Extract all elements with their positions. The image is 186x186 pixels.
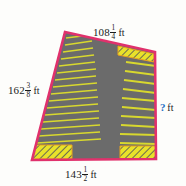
unknown-value-marker: ? [160,101,166,113]
dimension-left-unit: ft [33,85,39,96]
dimension-bottom-unit: ft [90,169,96,180]
hatched-corner-bottom-right [120,146,156,159]
dimension-left-fraction: 38 [25,82,31,98]
dimension-bottom-whole: 143 [65,168,82,180]
dimension-bottom-fraction: 12 [82,166,88,182]
dimension-top-unit: ft [118,27,124,38]
dimension-top-denominator: 4 [110,33,116,41]
dimension-right-unit: ft [167,102,173,113]
dimension-top-fraction: 14 [110,24,116,40]
dimension-left-denominator: 8 [25,91,31,99]
dimension-left-whole: 162 [8,84,25,96]
dimension-label-right-unknown: ?ft [160,102,174,113]
parking-lot-figure: 10814ft 16238ft 14312ft ?ft [0,0,186,186]
dimension-bottom-denominator: 2 [82,175,88,183]
dimension-label-left: 16238ft [8,82,40,98]
dimension-label-bottom: 14312ft [65,166,97,182]
hatched-corner-bottom-left [33,145,72,159]
dimension-label-top: 10814ft [93,24,125,40]
dimension-top-whole: 108 [93,26,110,38]
